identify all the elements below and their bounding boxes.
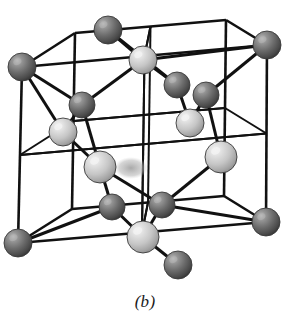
atom-face-center-left	[49, 118, 77, 146]
interior-shadow	[114, 157, 148, 179]
atom-corner-back-top-right	[253, 31, 281, 59]
atom-face-center-bottom	[127, 221, 159, 253]
cube-inner-line	[142, 56, 145, 233]
inner-shadow	[114, 157, 148, 179]
atom-tetrahedral-upper-mid	[164, 72, 190, 98]
atom-corner-back-top-left	[94, 16, 122, 44]
cube-mid-plane-edge	[225, 108, 267, 134]
atom-tetrahedral-upper-left	[69, 92, 95, 118]
atomic-bond	[143, 45, 267, 60]
light-atom-sphere	[84, 151, 116, 183]
crystal-structure-diagram	[0, 0, 290, 331]
dark-atom-sphere	[99, 194, 125, 220]
dark-atom-sphere	[253, 31, 281, 59]
atom-corner-front-bottom-right	[252, 208, 280, 236]
dark-atom-sphere	[193, 82, 219, 108]
dark-atom-sphere	[8, 53, 36, 81]
light-atom-sphere	[205, 141, 237, 173]
dark-atom-sphere	[164, 251, 192, 279]
atom-tetrahedral-upper-right	[193, 82, 219, 108]
dark-atom-sphere	[164, 72, 190, 98]
atom-face-center-right	[205, 141, 237, 173]
light-atom-sphere	[49, 118, 77, 146]
dark-atom-sphere	[4, 229, 32, 257]
dark-atom-sphere	[94, 16, 122, 44]
dark-atom-sphere	[252, 208, 280, 236]
crystal-structure-figure: (b)	[0, 0, 290, 331]
atom-tetrahedral-lower-left	[99, 194, 125, 220]
atom-face-center-front	[84, 151, 116, 183]
atom-corner-front-bottom-left	[4, 229, 32, 257]
atom-face-center-back	[176, 109, 204, 137]
cube-front-edge	[266, 45, 267, 222]
figure-caption: (b)	[0, 292, 290, 312]
atom-tetrahedral-lower-right	[149, 192, 175, 218]
atom-face-center-top	[129, 46, 157, 74]
light-atom-sphere	[129, 46, 157, 74]
light-atom-sphere	[127, 221, 159, 253]
dark-atom-sphere	[69, 92, 95, 118]
dark-atom-sphere	[149, 192, 175, 218]
atom-corner-front-bottom-mid	[164, 251, 192, 279]
light-atom-sphere	[176, 109, 204, 137]
atom-corner-front-top-left	[8, 53, 36, 81]
